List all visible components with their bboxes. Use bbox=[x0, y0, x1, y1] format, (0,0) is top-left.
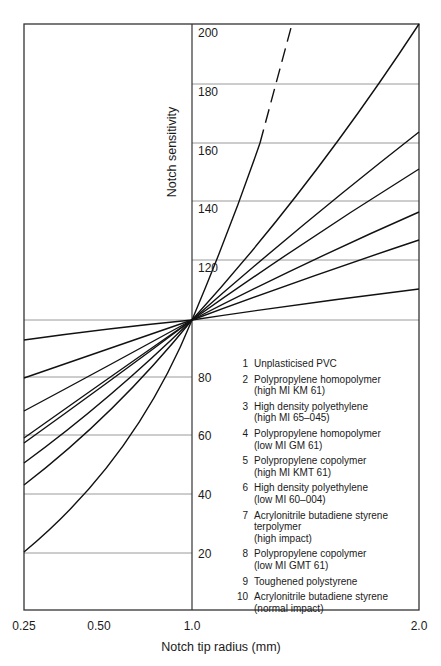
y-tick-20: 20 bbox=[198, 548, 211, 560]
legend-item: 4Polypropylene homopolymer (low MI GM 61… bbox=[236, 428, 436, 451]
x-axis-label: Notch tip radius (mm) bbox=[161, 640, 280, 654]
legend: 1Unplasticised PVC 2Polypropylene homopo… bbox=[236, 358, 436, 618]
x-tick-0.50: 0.50 bbox=[87, 620, 110, 632]
series-left bbox=[24, 320, 192, 552]
series-right bbox=[192, 24, 419, 320]
y-tick-160: 160 bbox=[198, 145, 218, 157]
y-tick-140: 140 bbox=[198, 203, 218, 215]
legend-item: 7Acrylonitrile butadiene styrene terpoly… bbox=[236, 510, 436, 545]
legend-item: 2Polypropylene homopolymer (high MI KM 6… bbox=[236, 374, 436, 397]
legend-item: 10Acrylonitrile butadiene styrene (norma… bbox=[236, 591, 436, 614]
legend-item: 9Toughened polystyrene bbox=[236, 576, 436, 588]
legend-item: 6High density polyethylene (low MI 60–00… bbox=[236, 482, 436, 505]
y-tick-40: 40 bbox=[198, 489, 211, 501]
legend-item: 5Polypropylene copolymer (high MI KMT 61… bbox=[236, 455, 436, 478]
x-tick-2.0: 2.0 bbox=[411, 620, 428, 632]
y-tick-80: 80 bbox=[198, 372, 211, 384]
x-tick-1.0: 1.0 bbox=[184, 620, 201, 632]
legend-item: 3High density polyethylene (high MI 65–0… bbox=[236, 401, 436, 424]
y-tick-120: 120 bbox=[198, 262, 218, 274]
y-tick-180: 180 bbox=[198, 86, 218, 98]
x-tick-0.25: 0.25 bbox=[12, 620, 35, 632]
legend-item: 1Unplasticised PVC bbox=[236, 358, 436, 370]
y-tick-60: 60 bbox=[198, 430, 211, 442]
y-tick-200: 200 bbox=[198, 27, 218, 39]
y-axis-label: Notch sensitivity bbox=[165, 107, 179, 197]
legend-item: 8Polypropylene copolymer (low MI GMT 61) bbox=[236, 548, 436, 571]
